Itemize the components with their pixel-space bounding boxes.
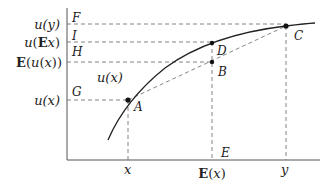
label-G: G [72,85,82,99]
label-A: A [133,100,143,114]
label-uy: u(y) [34,17,60,32]
label-y: y [280,162,289,177]
point-B [210,60,214,64]
label-B: B [217,65,227,79]
label-Eux: E(u(x)) [16,55,62,70]
point-A [125,97,130,102]
utility-diagram: u(y) u(Ex) E(u(x)) u(x) F I H G u(x) A D… [0,0,329,186]
label-D: D [216,44,227,58]
label-I: I [71,29,77,43]
label-Ex: E(x) [198,166,225,181]
label-x: x [124,162,132,177]
label-H: H [71,45,83,59]
label-uEx: u(Ex) [24,35,60,50]
utility-curve [108,23,315,140]
curve-label: u(x) [97,70,123,85]
label-ux: u(x) [34,93,60,108]
label-E: E [220,146,230,160]
point-C [283,23,288,28]
chord-AC [128,26,286,100]
point-D [210,41,214,45]
label-C: C [294,29,303,43]
label-F: F [71,11,81,25]
